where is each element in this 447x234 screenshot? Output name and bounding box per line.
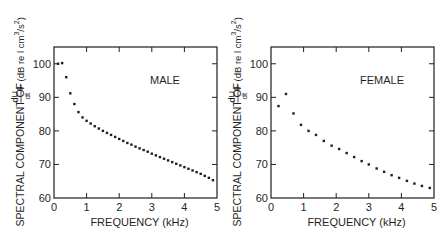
- svg-text:SPECTRAL COMPONENT OF: SPECTRAL COMPONENT OF: [14, 83, 26, 227]
- y-tick-label: 80: [256, 125, 268, 137]
- data-point: [142, 149, 144, 151]
- data-point: [61, 62, 63, 64]
- data-point: [179, 164, 181, 166]
- panel-label: FEMALE: [360, 74, 404, 86]
- data-point: [212, 179, 214, 181]
- data-point: [187, 168, 189, 170]
- panel-label: MALE: [150, 74, 180, 86]
- data-point: [65, 76, 67, 78]
- data-point: [114, 136, 116, 138]
- data-point: [292, 112, 294, 114]
- x-tick-label: 4: [398, 201, 404, 213]
- data-points: [277, 93, 431, 189]
- data-point: [183, 166, 185, 168]
- data-point: [122, 140, 124, 142]
- y-tick-label: 100: [33, 58, 51, 70]
- data-point: [171, 161, 173, 163]
- data-point: [102, 130, 104, 132]
- data-point: [195, 171, 197, 173]
- data-point: [353, 156, 355, 158]
- data-point: [175, 163, 177, 165]
- x-tick-label: 0: [268, 201, 274, 213]
- data-point: [134, 145, 136, 147]
- data-point: [345, 152, 347, 154]
- data-point: [360, 160, 362, 162]
- data-point: [285, 93, 287, 95]
- data-point: [73, 103, 75, 105]
- y-tick-label: 60: [256, 192, 268, 204]
- data-point: [77, 111, 79, 113]
- male-panel: 01234560708090100FREQUENCY (kHz)MALESPEC…: [0, 0, 224, 234]
- data-point: [85, 120, 87, 122]
- svg-text:(dB re l cm3/s2): (dB re l cm3/s2): [230, 17, 243, 81]
- data-point: [89, 122, 91, 124]
- data-point: [110, 134, 112, 136]
- data-point: [315, 134, 317, 136]
- svg-text:g: g: [232, 87, 240, 91]
- data-point: [204, 175, 206, 177]
- data-point: [390, 174, 392, 176]
- y-tick-label: 80: [39, 125, 51, 137]
- data-point: [98, 127, 100, 129]
- x-tick-label: 4: [181, 201, 187, 213]
- x-tick-label: 5: [431, 201, 437, 213]
- x-tick-label: 2: [333, 201, 339, 213]
- plot-frame: [271, 47, 434, 198]
- data-point: [69, 92, 71, 94]
- female-panel: 01234560708090100FREQUENCY (kHz)FEMALESP…: [217, 0, 441, 234]
- data-point: [406, 180, 408, 182]
- y-tick-label: 70: [256, 158, 268, 170]
- male-chart: 01234560708090100FREQUENCY (kHz)MALESPEC…: [0, 0, 224, 234]
- y-tick-label: 100: [250, 58, 268, 70]
- y-tick-label: 70: [39, 158, 51, 170]
- data-point: [163, 158, 165, 160]
- data-point: [375, 167, 377, 169]
- svg-text:SPECTRAL COMPONENT OF: SPECTRAL COMPONENT OF: [231, 83, 243, 227]
- x-tick-label: 3: [366, 201, 372, 213]
- data-point: [338, 148, 340, 150]
- data-point: [106, 132, 108, 134]
- x-axis-label: FREQUENCY (kHz): [90, 216, 188, 228]
- svg-text:dt: dt: [240, 92, 249, 99]
- data-point: [300, 124, 302, 126]
- data-point: [126, 142, 128, 144]
- data-point: [167, 159, 169, 161]
- y-axis-label: SPECTRAL COMPONENT OFdUgdt(dB re l cm3/s…: [10, 17, 32, 226]
- y-axis-label: SPECTRAL COMPONENT OFdUgdt(dB re l cm3/s…: [227, 17, 249, 226]
- x-tick-label: 0: [51, 201, 57, 213]
- x-axis-label: FREQUENCY (kHz): [307, 216, 405, 228]
- svg-text:dt: dt: [23, 92, 32, 99]
- y-tick-label: 60: [39, 192, 51, 204]
- data-point: [159, 156, 161, 158]
- data-point: [94, 125, 96, 127]
- data-point: [130, 143, 132, 145]
- data-point: [368, 163, 370, 165]
- data-point: [155, 154, 157, 156]
- data-point: [81, 116, 83, 118]
- data-point: [138, 147, 140, 149]
- x-tick-label: 1: [301, 201, 307, 213]
- data-point: [147, 150, 149, 152]
- svg-text:g: g: [15, 87, 23, 91]
- plot-frame: [54, 47, 217, 198]
- x-tick-label: 1: [84, 201, 90, 213]
- data-point: [57, 63, 59, 65]
- data-point: [429, 187, 431, 189]
- data-point: [398, 177, 400, 179]
- data-point: [413, 182, 415, 184]
- female-chart: 01234560708090100FREQUENCY (kHz)FEMALESP…: [217, 0, 447, 234]
- data-point: [307, 130, 309, 132]
- data-point: [200, 173, 202, 175]
- data-point: [118, 138, 120, 140]
- svg-text:dU: dU: [10, 91, 20, 103]
- data-point: [277, 105, 279, 107]
- data-point: [151, 153, 153, 155]
- svg-text:(dB re l cm3/s2): (dB re l cm3/s2): [13, 17, 26, 81]
- y-tick-label: 90: [256, 91, 268, 103]
- data-point: [383, 171, 385, 173]
- data-point: [323, 140, 325, 142]
- svg-text:dU: dU: [227, 91, 237, 103]
- data-point: [330, 144, 332, 146]
- x-tick-label: 2: [116, 201, 122, 213]
- data-point: [191, 169, 193, 171]
